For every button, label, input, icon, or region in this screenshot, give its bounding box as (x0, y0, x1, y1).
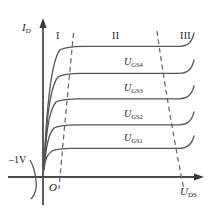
curve-ugs3 (44, 86, 194, 168)
curve-label-ugs1: UGS1 (124, 133, 143, 143)
curve-ugs1 (44, 136, 194, 170)
origin-label: O (49, 182, 57, 193)
curve-label-ugs3-sub: GS3 (131, 87, 143, 94)
curve-label-ugs4-sub: GS4 (131, 61, 143, 68)
region-label-3: III (180, 31, 191, 41)
fet-output-characteristic-figure: ID UDS O –1V I II III UGS4 UGS3 UGS2 UGS… (0, 0, 216, 212)
region-boundaries-group (59, 31, 184, 190)
curve-label-ugs2-sub: GS2 (131, 113, 143, 120)
ohmic-saturation-boundary-dashed (59, 33, 74, 189)
x-axis-label-sub: DS (188, 191, 197, 199)
curve-ugs4 (44, 60, 194, 168)
x-axis-arrowhead (194, 173, 204, 180)
pinchoff-branch-group (30, 160, 36, 199)
y-axis-label: ID (22, 22, 31, 33)
x-axis-label: UDS (180, 186, 197, 197)
negative-one-volt-label: –1V (9, 155, 26, 165)
region-label-2: II (112, 31, 119, 41)
y-axis-arrowhead (39, 18, 46, 28)
negative-vgs-branch-curve (30, 160, 36, 199)
curve-ugs2 (44, 112, 194, 169)
x-axis-label-main: U (180, 185, 188, 197)
region-label-1: I (56, 31, 60, 41)
saturation-breakdown-boundary-dashed (157, 31, 184, 190)
curve-label-ugs4: UGS4 (124, 57, 143, 67)
curve-label-ugs3: UGS3 (124, 83, 143, 93)
y-axis-label-sub: D (26, 27, 31, 35)
curve-label-ugs2: UGS2 (124, 109, 143, 119)
curve-label-ugs1-sub: GS1 (131, 137, 143, 144)
